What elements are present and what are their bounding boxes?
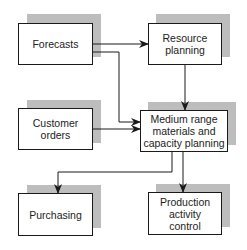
node-forecasts: Forecasts: [18, 23, 93, 65]
node-label: Medium range materials and capacity plan…: [143, 113, 224, 149]
node-label: Production activity control: [160, 196, 210, 232]
node-production-activity-control: Production activity control: [148, 192, 222, 235]
node-label: Resource planning: [163, 32, 208, 56]
node-medium-range: Medium range materials and capacity plan…: [140, 110, 228, 152]
edge-forecasts-medium: [93, 52, 140, 122]
node-purchasing: Purchasing: [18, 193, 93, 236]
edge-medium-purchasing: [58, 152, 172, 193]
node-label: Purchasing: [29, 209, 82, 221]
node-customer-orders: Customer orders: [18, 108, 93, 150]
node-resource-planning: Resource planning: [148, 23, 222, 65]
node-label: Customer orders: [33, 117, 79, 141]
node-label: Forecasts: [32, 38, 78, 50]
